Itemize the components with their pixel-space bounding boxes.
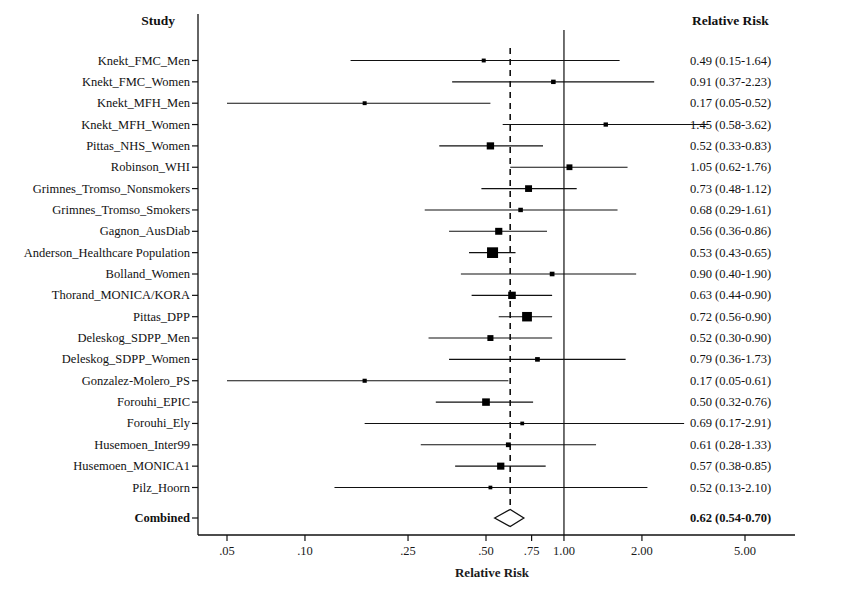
study-label: Knekt_FMC_Men: [98, 54, 190, 67]
study-label: Grimnes_Tromso_Smokers: [52, 203, 190, 216]
study-label: Forouhi_Ely: [127, 417, 190, 430]
point-estimate-marker: [506, 442, 511, 447]
relative-risk-value: 0.79 (0.36-1.73): [690, 353, 771, 366]
relative-risk-value: 0.73 (0.48-1.12): [690, 182, 771, 195]
study-label: Forouhi_EPIC: [117, 396, 190, 409]
point-estimate-marker: [487, 247, 498, 258]
relative-risk-column-header: Relative Risk: [692, 14, 769, 27]
relative-risk-value: 0.91 (0.37-2.23): [690, 75, 771, 88]
relative-risk-value: 0.52 (0.13-2.10): [690, 481, 771, 494]
study-label: Gagnon_AusDiab: [100, 225, 190, 238]
study-label: Knekt_MFH_Men: [97, 97, 190, 110]
point-estimate-marker: [522, 312, 532, 321]
point-estimate-marker: [497, 463, 504, 470]
combined-relative-risk-value: 0.62 (0.54-0.70): [690, 512, 771, 525]
point-estimate-marker: [520, 422, 524, 426]
x-axis-tick-label: .05: [219, 544, 235, 559]
combined-estimate-diamond: [495, 510, 524, 527]
point-estimate-marker: [604, 122, 608, 126]
x-axis-tick-label: .10: [297, 544, 313, 559]
study-label: Pilz_Hoorn: [132, 481, 190, 494]
relative-risk-value: 0.56 (0.36-0.86): [690, 225, 771, 238]
relative-risk-value: 0.57 (0.38-0.85): [690, 460, 771, 473]
relative-risk-value: 0.52 (0.33-0.83): [690, 139, 771, 152]
point-estimate-marker: [495, 228, 502, 235]
forest-plot: .05.10.25.50.751.002.005.00Relative Risk…: [0, 0, 842, 591]
relative-risk-value: 1.05 (0.62-1.76): [690, 161, 771, 174]
combined-label: Combined: [134, 512, 190, 525]
point-estimate-marker: [551, 80, 556, 84]
relative-risk-value: 0.61 (0.28-1.33): [690, 438, 771, 451]
study-label: Knekt_FMC_Women: [82, 75, 190, 88]
study-label: Husemoen_Inter99: [94, 438, 190, 451]
relative-risk-value: 0.90 (0.40-1.90): [690, 268, 771, 281]
x-axis-tick-label: 1.00: [553, 544, 575, 559]
point-estimate-marker: [535, 357, 540, 362]
relative-risk-value: 0.50 (0.32-0.76): [690, 396, 771, 409]
point-estimate-marker: [550, 272, 555, 277]
x-axis-tick-label: .75: [524, 544, 540, 559]
study-label: Anderson_Healthcare Population: [24, 246, 190, 259]
relative-risk-value: 0.49 (0.15-1.64): [690, 54, 771, 67]
relative-risk-value: 0.69 (0.17-2.91): [690, 417, 771, 430]
relative-risk-value: 0.72 (0.56-0.90): [690, 310, 771, 323]
x-axis-tick-label: 2.00: [631, 544, 653, 559]
study-label: Thorand_MONICA/KORA: [52, 289, 190, 302]
relative-risk-value: 0.52 (0.30-0.90): [690, 332, 771, 345]
study-label: Deleskog_SDPP_Women: [62, 353, 190, 366]
study-label: Pittas_DPP: [133, 310, 190, 323]
point-estimate-marker: [518, 208, 523, 212]
point-estimate-marker: [482, 398, 490, 405]
study-label: Bolland_Women: [106, 268, 190, 281]
x-axis-tick-label: .50: [478, 544, 494, 559]
point-estimate-marker: [487, 142, 494, 149]
x-axis-tick-label: .25: [400, 544, 416, 559]
relative-risk-value: 1.45 (0.58-3.62): [690, 118, 771, 131]
study-column-header: Study: [141, 14, 175, 27]
study-label: Knekt_MFH_Women: [81, 118, 190, 131]
x-axis-tick-label: 5.00: [734, 544, 756, 559]
point-estimate-marker: [489, 486, 493, 490]
study-label: Deleskog_SDPP_Men: [77, 332, 190, 345]
relative-risk-value: 0.17 (0.05-0.61): [690, 374, 771, 387]
study-label: Husemoen_MONICA1: [73, 460, 190, 473]
point-estimate-marker: [482, 59, 486, 63]
study-label: Pittas_NHS_Women: [86, 139, 190, 152]
x-axis-title: Relative Risk: [455, 565, 529, 581]
relative-risk-value: 0.53 (0.43-0.65): [690, 246, 771, 259]
relative-risk-value: 0.63 (0.44-0.90): [690, 289, 771, 302]
study-label: Grimnes_Tromso_Nonsmokers: [33, 182, 190, 195]
study-label: Robinson_WHI: [111, 161, 190, 174]
relative-risk-value: 0.17 (0.05-0.52): [690, 97, 771, 110]
point-estimate-marker: [566, 164, 572, 170]
relative-risk-value: 0.68 (0.29-1.61): [690, 203, 771, 216]
point-estimate-marker: [487, 335, 493, 341]
point-estimate-marker: [363, 379, 367, 383]
point-estimate-marker: [508, 292, 516, 299]
point-estimate-marker: [363, 101, 367, 105]
study-label: Gonzalez-Molero_PS: [82, 374, 190, 387]
point-estimate-marker: [525, 185, 532, 192]
